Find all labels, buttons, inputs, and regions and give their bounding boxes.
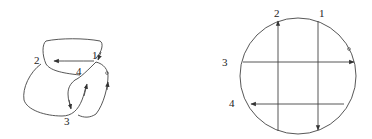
curve-arrow-3 <box>84 84 87 96</box>
left-curve-diagram: 1 2 3 4 <box>24 39 109 127</box>
left-label-2: 2 <box>34 54 40 66</box>
disk-boundary <box>240 18 356 134</box>
right-label-4: 4 <box>229 97 235 109</box>
left-label-1: 1 <box>92 49 98 61</box>
curve-arrow-4 <box>69 100 71 109</box>
curve-segment-5 <box>78 62 108 117</box>
right-label-1: 1 <box>319 7 325 19</box>
left-label-4: 4 <box>76 65 82 77</box>
figure-canvas: 1 2 3 4 1 2 3 4 <box>0 0 372 139</box>
right-circle-diagram: 1 2 3 4 <box>222 7 356 134</box>
right-label-3: 3 <box>222 56 228 68</box>
left-label-3: 3 <box>64 115 70 127</box>
right-label-2: 2 <box>274 7 280 19</box>
